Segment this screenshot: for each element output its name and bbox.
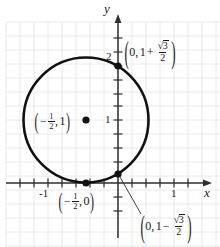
sqrt3-over-2-fraction: √3 2	[156, 40, 170, 63]
fraction-denominator: 2	[159, 52, 166, 64]
fraction-numerator: √3	[172, 214, 186, 226]
x-tangent-point-label: ( − 1 2 , 0 )	[58, 192, 95, 210]
y-tick-label-1: 1	[105, 114, 111, 125]
x-tick-label-1: 1	[171, 188, 177, 199]
point-upper-y-intercept	[114, 62, 121, 69]
fraction-numerator: 1	[72, 192, 78, 201]
open-paren: (	[58, 190, 63, 213]
center-point-label: ( − 1 2 , 1 )	[34, 112, 71, 130]
one-half-fraction: 1 2	[72, 192, 78, 210]
open-paren: (	[124, 35, 129, 68]
y-axis-label: y	[104, 2, 110, 15]
close-paren: )	[171, 35, 176, 68]
y-axis-arrow	[115, 14, 122, 23]
plus-sign: +	[146, 46, 155, 58]
fraction-denominator: 2	[72, 201, 78, 211]
radicand: 3	[163, 40, 169, 52]
upper-y-intercept-label: ( 0 , 1 + √3 2 )	[124, 40, 176, 63]
fraction-denominator: 2	[48, 121, 54, 131]
close-paren: )	[90, 190, 95, 213]
lower-y-intercept-label: ( 0 , 1 − √3 2 )	[140, 214, 192, 237]
point-lower-y-intercept	[114, 170, 121, 177]
close-paren: )	[66, 110, 71, 133]
square-root-icon: √3	[157, 40, 169, 52]
minus-sign: −	[39, 115, 48, 127]
open-paren: (	[34, 110, 39, 133]
fraction-denominator: 2	[175, 226, 182, 238]
fraction-numerator: 1	[48, 112, 54, 121]
fraction-numerator: √3	[156, 40, 170, 52]
minus-sign: −	[63, 195, 72, 207]
one-half-fraction: 1 2	[48, 112, 54, 130]
point-center	[82, 116, 89, 123]
square-root-icon: √3	[173, 214, 185, 226]
x-tick-label-neg1: -1	[39, 188, 48, 199]
radicand: 3	[179, 214, 185, 226]
open-paren: (	[140, 209, 145, 242]
x-axis-label: x	[204, 186, 210, 199]
y-tick-label-2: 2	[106, 51, 112, 62]
circle-graph-figure: x y -1 1 1 2 ( − 1 2 , 1 ) ( − 1 2 , 0 )…	[0, 0, 220, 247]
close-paren: )	[187, 209, 192, 242]
point-x-tangent	[82, 179, 89, 186]
minus-sign: −	[162, 220, 171, 232]
sqrt3-over-2-fraction: √3 2	[172, 214, 186, 237]
